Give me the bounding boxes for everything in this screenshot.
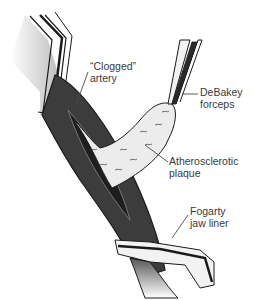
diagram-canvas: “Clogged” artery DeBakey forceps Atheros… — [0, 0, 253, 300]
label-line: “Clogged” — [90, 60, 136, 72]
label-clogged-artery: “Clogged” artery — [90, 60, 136, 84]
label-line: plaque — [169, 167, 238, 179]
label-line: DeBakey — [200, 86, 243, 98]
label-atherosclerotic-plaque: Atherosclerotic plaque — [169, 155, 238, 179]
label-line: jaw liner — [190, 217, 229, 229]
label-line: Fogarty — [190, 205, 229, 217]
label-line: artery — [90, 72, 136, 84]
label-line: Atherosclerotic — [169, 155, 238, 167]
label-debakey-forceps: DeBakey forceps — [200, 86, 243, 110]
illustration — [0, 0, 253, 300]
label-line: forceps — [200, 98, 243, 110]
leader-fogarty — [172, 215, 188, 238]
label-fogarty-jaw-liner: Fogarty jaw liner — [190, 205, 229, 229]
